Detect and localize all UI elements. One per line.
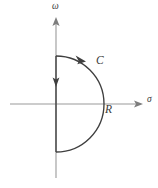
contour-diagram-canvas [0, 0, 158, 188]
omega-axis-label: ω [52, 2, 59, 12]
contour-arc-arrowhead-icon [76, 56, 86, 65]
contour-label: C [96, 55, 104, 67]
sigma-axis-label: σ [147, 95, 152, 105]
radius-label: R [105, 104, 112, 116]
contour-figure: ω σ C R [0, 0, 158, 188]
